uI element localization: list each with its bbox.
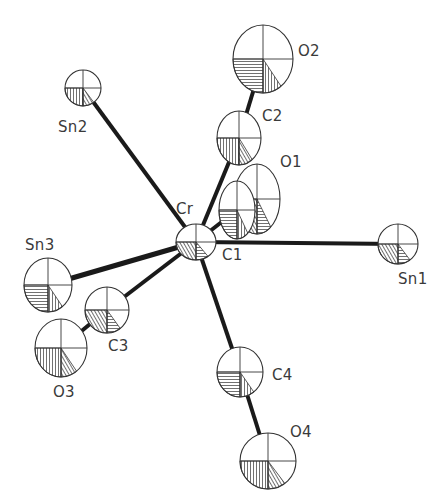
atom-sn1 [378, 224, 418, 264]
atom-label-sn1: Sn1 [398, 270, 427, 288]
atom-label-c2: C2 [262, 107, 283, 125]
atom-label-o2: O2 [298, 42, 320, 60]
atom-label-c1: C1 [222, 246, 243, 264]
atom-label-o3: O3 [53, 383, 75, 401]
atom-label-c3: C3 [108, 337, 129, 355]
atom-o4 [240, 433, 296, 489]
atom-label-c4: C4 [272, 366, 293, 384]
atom-c3 [85, 287, 129, 333]
atom-c4 [217, 347, 263, 397]
atom-label-cr: Cr [176, 200, 193, 218]
atom-cr [176, 224, 216, 260]
atom-label-o1: O1 [280, 153, 302, 171]
bond-cr-sn2 [83, 88, 196, 242]
atom-label-sn3: Sn3 [25, 236, 54, 254]
bond-cr-sn1 [196, 242, 398, 244]
atom-sn2 [65, 70, 101, 106]
atom-o3 [35, 319, 87, 377]
atom-label-o4: O4 [290, 423, 312, 441]
atom-o2 [233, 25, 293, 93]
atom-sn3 [24, 258, 72, 312]
atom-c1 [219, 181, 255, 239]
atom-c2 [217, 111, 261, 165]
atom-label-sn2: Sn2 [58, 118, 87, 136]
atoms-layer [24, 25, 418, 489]
